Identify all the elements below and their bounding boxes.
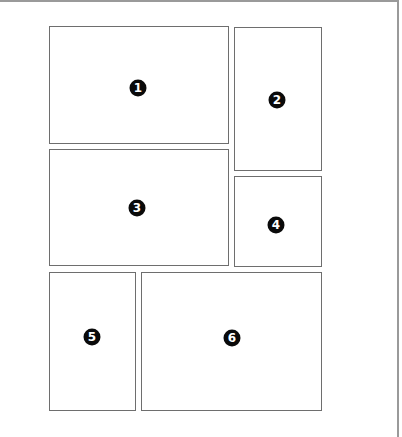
page-frame-top-border	[0, 0, 399, 2]
panel-number-badge-5: 5	[84, 329, 101, 346]
panel-number-badge-3: 3	[129, 200, 146, 217]
panel-number-badge-4: 4	[268, 217, 285, 234]
page-frame-right-border	[397, 0, 399, 437]
panel-number-badge-1: 1	[130, 80, 147, 97]
panel-number-badge-6: 6	[224, 330, 241, 347]
panel-number-badge-2: 2	[269, 92, 286, 109]
